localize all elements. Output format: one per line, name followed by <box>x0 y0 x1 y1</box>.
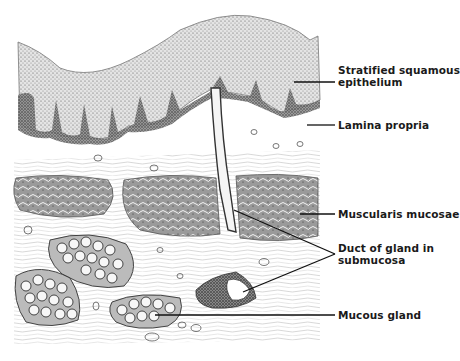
label-muscularis-mucosae: Muscularis mucosae <box>338 208 459 220</box>
label-mucous-gland: Mucous gland <box>338 309 421 321</box>
label-stratified-squamous-epithelium: Stratified squamous epithelium <box>338 64 460 88</box>
label-duct-of-gland-in-submucosa: Duct of gland in submucosa <box>338 242 434 266</box>
label-lamina-propria: Lamina propria <box>338 119 429 131</box>
